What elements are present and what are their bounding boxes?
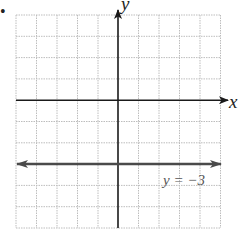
- y-axis-label: y: [121, 0, 129, 13]
- x-axis-label: x: [229, 92, 237, 111]
- line-equation-label: y = −3: [163, 173, 205, 188]
- coordinate-graph: [0, 0, 252, 234]
